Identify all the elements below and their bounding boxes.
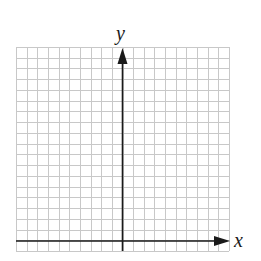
y-axis-label: y — [114, 22, 125, 45]
x-axis-label: x — [233, 229, 243, 251]
x-axis-arrow-icon — [214, 236, 230, 246]
coordinate-plane: x y — [0, 0, 261, 261]
y-axis-arrow-icon — [118, 48, 128, 64]
